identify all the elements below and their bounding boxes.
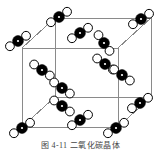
carbon-center-dot bbox=[79, 119, 81, 121]
carbon-center-dot bbox=[41, 69, 43, 71]
carbon-center-dot bbox=[115, 127, 117, 129]
carbon-center-dot bbox=[140, 18, 142, 20]
carbon-center-dot bbox=[21, 127, 23, 129]
cell-back-face bbox=[55, 18, 151, 97]
co2-molecule bbox=[50, 78, 75, 98]
co2-molecule bbox=[104, 118, 129, 137]
carbon-center-dot bbox=[58, 16, 60, 18]
co2-molecule bbox=[110, 65, 135, 85]
co2-molecule bbox=[94, 31, 114, 56]
co2-molecule bbox=[128, 93, 153, 112]
carbon-center-dot bbox=[61, 105, 63, 107]
crystal-structure-diagram bbox=[0, 0, 161, 151]
molecule-layer bbox=[6, 7, 154, 137]
carbon-center-dot bbox=[79, 32, 81, 34]
carbon-center-dot bbox=[104, 63, 106, 65]
co2-molecule bbox=[47, 7, 72, 26]
carbon-center-dot bbox=[139, 102, 141, 104]
figure-caption: 图 4-11 二氧化碳晶体 bbox=[0, 141, 161, 151]
co2-molecule bbox=[30, 60, 55, 80]
carbon-center-dot bbox=[121, 74, 123, 76]
co2-molecule bbox=[68, 23, 93, 42]
carbon-center-dot bbox=[61, 87, 63, 89]
co2-molecule bbox=[50, 96, 75, 116]
co2-crystal-figure: 图 4-11 二氧化碳晶体 bbox=[0, 0, 161, 151]
carbon-center-dot bbox=[17, 40, 19, 42]
carbon-center-dot bbox=[103, 42, 105, 44]
